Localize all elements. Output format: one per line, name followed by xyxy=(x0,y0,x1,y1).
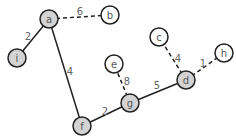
node-label: f xyxy=(80,121,84,132)
edge-weight-label: 2 xyxy=(25,31,31,42)
node-i: i xyxy=(8,49,26,67)
node-label: i xyxy=(16,53,19,64)
node-label: d xyxy=(183,75,189,86)
edge-weight-label: 5 xyxy=(154,80,160,91)
edge-weight-label: 6 xyxy=(77,6,83,17)
node-b: b xyxy=(101,6,119,24)
node-a: a xyxy=(40,10,58,28)
node-g: g xyxy=(121,94,139,112)
node-d: d xyxy=(177,71,195,89)
node-h: h xyxy=(215,44,233,62)
node-label: a xyxy=(46,14,52,25)
node-c: c xyxy=(150,28,168,46)
node-label: b xyxy=(107,10,113,21)
edge-weight-label: 2 xyxy=(102,106,108,117)
edge-weight-label: 4 xyxy=(67,66,73,77)
edge-weight-label: 1 xyxy=(200,58,206,69)
node-label: h xyxy=(221,48,227,59)
node-label: g xyxy=(127,98,133,109)
edge-weight-label: 8 xyxy=(124,76,130,87)
node-label: e xyxy=(111,59,117,70)
node-label: c xyxy=(156,32,162,43)
node-e: e xyxy=(105,55,123,73)
edge-a-f xyxy=(49,19,82,126)
graph-canvas: 62428541 abichedgf xyxy=(0,0,236,139)
node-f: f xyxy=(73,117,91,135)
edge-weight-label: 4 xyxy=(175,53,181,64)
